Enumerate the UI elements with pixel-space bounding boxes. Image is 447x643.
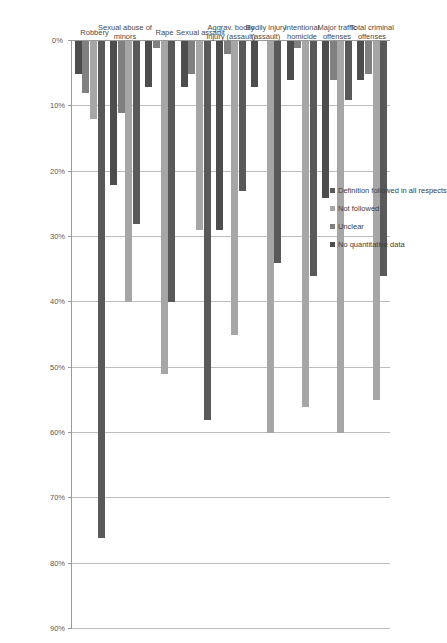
legend-swatch-icon — [330, 242, 335, 247]
bar — [90, 41, 97, 119]
x-tick-label: 60% — [45, 428, 71, 437]
x-tick-label: 40% — [45, 297, 71, 306]
bar — [118, 41, 125, 113]
bar — [188, 41, 195, 74]
x-tick-label: 0% — [45, 36, 71, 45]
bar — [310, 41, 317, 276]
gridline — [72, 628, 390, 629]
bar — [110, 41, 117, 185]
legend-label: Unclear — [338, 222, 364, 231]
x-tick-label: 50% — [45, 362, 71, 371]
x-tick-label: 70% — [45, 493, 71, 502]
bar — [196, 41, 203, 230]
x-tick-label: 10% — [45, 101, 71, 110]
bar — [161, 41, 168, 374]
bar — [330, 41, 337, 80]
legend-swatch-icon — [330, 206, 335, 211]
bar — [267, 41, 274, 433]
bar — [181, 41, 188, 87]
plot-area — [72, 40, 390, 628]
bar — [251, 41, 258, 87]
bar — [82, 41, 89, 93]
legend-item: Not followed — [330, 204, 447, 213]
legend-label: No quantitative data — [338, 240, 405, 249]
x-tick-label: 90% — [45, 624, 71, 633]
bar — [168, 41, 175, 302]
bar — [133, 41, 140, 224]
bar — [216, 41, 223, 230]
gridline — [72, 497, 390, 498]
bar — [231, 41, 238, 335]
bar — [204, 41, 211, 420]
bar — [239, 41, 246, 191]
legend-item: No quantitative data — [330, 240, 447, 249]
bar — [357, 41, 364, 80]
bar — [302, 41, 309, 407]
bar — [294, 41, 301, 48]
legend-swatch-icon — [330, 188, 335, 193]
legend-label: Not followed — [338, 204, 379, 213]
legend-items: Definition followed in all respectsNot f… — [330, 186, 447, 258]
x-tick-label: 20% — [45, 166, 71, 175]
x-tick-label: 80% — [45, 558, 71, 567]
bar — [365, 41, 372, 74]
bar — [98, 41, 105, 538]
category-axis-line — [71, 40, 72, 628]
category-label: Robbery — [65, 28, 123, 37]
gridline — [72, 563, 390, 564]
legend-label: Definition followed in all respects — [338, 186, 447, 195]
x-tick-label: 30% — [45, 232, 71, 241]
bar — [153, 41, 160, 48]
legend-swatch-icon — [330, 224, 335, 229]
bar — [224, 41, 231, 54]
bar — [75, 41, 82, 74]
bar — [322, 41, 329, 198]
bar — [125, 41, 132, 302]
legend-item: Unclear — [330, 222, 447, 231]
legend-item: Definition followed in all respects — [330, 186, 447, 195]
bar — [145, 41, 152, 87]
bar — [345, 41, 352, 100]
bar — [274, 41, 281, 263]
bar — [287, 41, 294, 80]
